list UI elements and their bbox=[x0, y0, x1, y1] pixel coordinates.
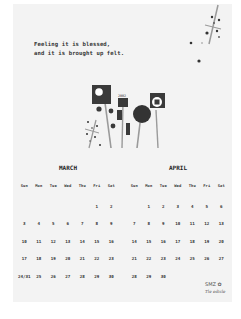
day-cell: 20 bbox=[61, 250, 76, 267]
day-cell: 18 bbox=[32, 250, 47, 267]
day-cell: 14 bbox=[75, 233, 90, 250]
day-cell: 7 bbox=[127, 215, 142, 232]
day-cell: 9 bbox=[104, 215, 119, 232]
brand-name: SMZ bbox=[205, 281, 216, 287]
day-cell: 15 bbox=[90, 233, 105, 250]
weekday-wed: Wed bbox=[171, 181, 186, 198]
day-cell: 27 bbox=[61, 268, 76, 285]
weekday-sun: Sun bbox=[127, 181, 142, 198]
day-cell: 18 bbox=[185, 233, 200, 250]
weekday-fri: Fri bbox=[200, 181, 215, 198]
flower-illustration: 2002 bbox=[0, 0, 241, 160]
weekday-sat: Sat bbox=[104, 181, 119, 198]
weekday-fri: Fri bbox=[90, 181, 105, 198]
day-cell: 17 bbox=[17, 250, 32, 267]
day-cell: 22 bbox=[90, 250, 105, 267]
day-cell-24-31: 24/31 bbox=[17, 268, 32, 285]
day-cell: 26 bbox=[46, 268, 61, 285]
day-cell bbox=[75, 198, 90, 215]
day-cell bbox=[127, 198, 142, 215]
day-cell: 23 bbox=[104, 250, 119, 267]
weekday-tue: Tue bbox=[156, 181, 171, 198]
day-cell: 13 bbox=[214, 215, 229, 232]
month-march: MARCH Sun Mon Tue Wed Thu Fri Sat 1 2 3 … bbox=[13, 163, 123, 285]
day-cell: 11 bbox=[32, 233, 47, 250]
day-cell: 5 bbox=[46, 215, 61, 232]
weekday-mon: Mon bbox=[32, 181, 47, 198]
day-cell: 28 bbox=[75, 268, 90, 285]
weekday-thu: Thu bbox=[185, 181, 200, 198]
day-cell bbox=[185, 268, 200, 285]
day-cell: 25 bbox=[185, 250, 200, 267]
month-title: MARCH bbox=[13, 163, 123, 173]
day-cell: 5 bbox=[200, 198, 215, 215]
day-cell: 30 bbox=[156, 268, 171, 285]
day-cell: 12 bbox=[200, 215, 215, 232]
day-cell: 2 bbox=[156, 198, 171, 215]
weekday-sat: Sat bbox=[214, 181, 229, 198]
weekday-thu: Thu bbox=[75, 181, 90, 198]
day-cell: 21 bbox=[127, 250, 142, 267]
weekday-wed: Wed bbox=[61, 181, 76, 198]
day-cell: 14 bbox=[127, 233, 142, 250]
weekday-mon: Mon bbox=[142, 181, 157, 198]
day-cell: 22 bbox=[142, 250, 157, 267]
month-title: APRIL bbox=[123, 163, 233, 173]
day-cell: 7 bbox=[75, 215, 90, 232]
day-cell: 6 bbox=[214, 198, 229, 215]
month-april: APRIL Sun Mon Tue Wed Thu Fri Sat 1 2 3 … bbox=[123, 163, 233, 285]
day-cell: 29 bbox=[90, 268, 105, 285]
day-cell: 30 bbox=[104, 268, 119, 285]
march-grid: Sun Mon Tue Wed Thu Fri Sat 1 2 3 4 5 6 … bbox=[17, 181, 123, 285]
day-cell bbox=[46, 198, 61, 215]
day-cell: 8 bbox=[142, 215, 157, 232]
day-cell: 29 bbox=[142, 268, 157, 285]
day-cell: 6 bbox=[61, 215, 76, 232]
day-cell: 20 bbox=[214, 233, 229, 250]
sparkle-icon bbox=[190, 5, 221, 63]
day-cell bbox=[17, 198, 32, 215]
weekday-sun: Sun bbox=[17, 181, 32, 198]
day-cell bbox=[32, 198, 47, 215]
day-cell: 1 bbox=[142, 198, 157, 215]
day-cell: 2 bbox=[104, 198, 119, 215]
day-cell: 9 bbox=[156, 215, 171, 232]
day-cell: 4 bbox=[185, 198, 200, 215]
day-cell: 11 bbox=[185, 215, 200, 232]
day-cell: 12 bbox=[46, 233, 61, 250]
day-cell: 23 bbox=[156, 250, 171, 267]
brand-subtitle: Tle edicle bbox=[205, 289, 226, 294]
weekday-tue: Tue bbox=[46, 181, 61, 198]
day-cell: 24 bbox=[171, 250, 186, 267]
day-cell: 26 bbox=[200, 250, 215, 267]
day-cell: 16 bbox=[104, 233, 119, 250]
day-cell: 17 bbox=[171, 233, 186, 250]
day-cell: 15 bbox=[142, 233, 157, 250]
small-sparkle-icon bbox=[85, 120, 101, 148]
day-cell: 28 bbox=[127, 268, 142, 285]
day-cell: 10 bbox=[171, 215, 186, 232]
day-cell: 8 bbox=[90, 215, 105, 232]
day-cell: 4 bbox=[32, 215, 47, 232]
day-cell: 21 bbox=[75, 250, 90, 267]
day-cell: 1 bbox=[90, 198, 105, 215]
day-cell: 13 bbox=[61, 233, 76, 250]
day-cell: 10 bbox=[17, 233, 32, 250]
day-cell: 3 bbox=[171, 198, 186, 215]
day-cell: 27 bbox=[214, 250, 229, 267]
day-cell: 19 bbox=[46, 250, 61, 267]
day-cell bbox=[171, 268, 186, 285]
day-cell: 3 bbox=[17, 215, 32, 232]
day-cell bbox=[61, 198, 76, 215]
day-cell: 16 bbox=[156, 233, 171, 250]
brand-logo: SMZ ✿ bbox=[205, 281, 222, 287]
day-cell: 25 bbox=[32, 268, 47, 285]
year-label: 2002 bbox=[118, 94, 126, 98]
april-grid: Sun Mon Tue Wed Thu Fri Sat 1 2 3 4 5 6 … bbox=[127, 181, 233, 285]
flower-logo-icon: ✿ bbox=[218, 281, 222, 287]
day-cell: 19 bbox=[200, 233, 215, 250]
